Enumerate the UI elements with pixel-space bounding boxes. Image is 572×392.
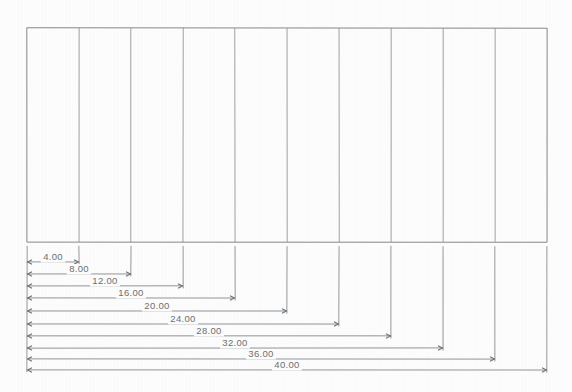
- part-outline-group: [27, 28, 547, 242]
- dimension-label-36.00: 36.00: [248, 348, 273, 359]
- extension-lines-group: [27, 246, 547, 373]
- dimension-label-4.00: 4.00: [43, 251, 63, 262]
- dimension-label-32.00: 32.00: [222, 337, 247, 348]
- dimension-label-40.00: 40.00: [274, 359, 299, 370]
- dimension-label-16.00: 16.00: [118, 287, 143, 298]
- dimension-label-20.00: 20.00: [144, 300, 169, 311]
- engineering-drawing-page: 4.008.0012.0016.0020.0024.0028.0032.0036…: [0, 0, 572, 392]
- dimension-label-28.00: 28.00: [196, 325, 221, 336]
- dimension-label-24.00: 24.00: [170, 313, 195, 324]
- dimension-label-8.00: 8.00: [69, 263, 89, 274]
- cad-drawing-canvas: 4.008.0012.0016.0020.0024.0028.0032.0036…: [0, 0, 572, 392]
- dimension-label-12.00: 12.00: [92, 275, 117, 286]
